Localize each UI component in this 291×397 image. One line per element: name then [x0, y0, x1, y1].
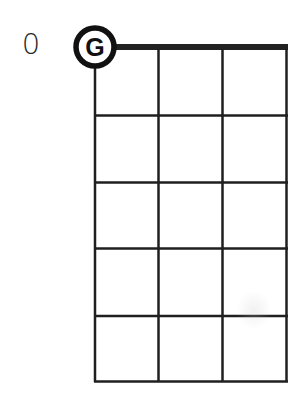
- open-string-marker: G: [76, 28, 114, 66]
- marker-note-label: G: [85, 33, 104, 61]
- frets: [94, 116, 288, 382]
- nut: [95, 44, 288, 50]
- strings: [95, 47, 287, 382]
- scan-artifact: [236, 290, 272, 330]
- fretboard-grid: G: [0, 0, 291, 397]
